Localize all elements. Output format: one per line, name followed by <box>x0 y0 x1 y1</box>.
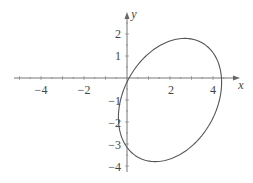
ellipse-curve <box>118 38 221 161</box>
x-tick-label: 4 <box>210 83 216 97</box>
y-tick-label: −4 <box>108 160 121 174</box>
y-tick-label: 2 <box>115 27 121 41</box>
y-tick-label: −3 <box>108 138 121 152</box>
y-axis-arrow-icon <box>125 12 130 19</box>
ellipse-plot: −4 −2 2 4 x 2 1 −1 −2 −3 −4 y <box>0 0 253 183</box>
y-tick-label: 1 <box>115 49 121 63</box>
tick-labels: −4 −2 2 4 x 2 1 −1 −2 −3 −4 y <box>35 7 245 174</box>
x-axis-label: x <box>237 78 244 92</box>
y-axis-label: y <box>130 7 137 21</box>
x-tick-label: −4 <box>35 83 48 97</box>
x-tick-label: −2 <box>78 83 91 97</box>
x-tick-label: 2 <box>168 83 174 97</box>
